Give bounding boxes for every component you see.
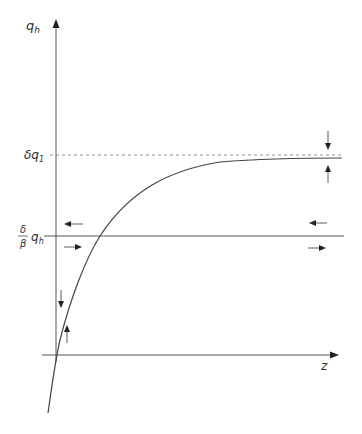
arrow-left-icon xyxy=(309,220,316,226)
arrow-left-icon xyxy=(64,221,71,227)
arrow-up-icon xyxy=(325,165,331,172)
arrow-up-icon xyxy=(64,325,70,332)
arrow-down-icon xyxy=(58,301,64,308)
solution-curve xyxy=(48,158,342,413)
y-axis-label: qh xyxy=(26,18,40,35)
arrow-right-icon xyxy=(319,245,326,251)
ratio-label-var: qh xyxy=(31,230,44,246)
y-axis-arrow-icon xyxy=(53,19,60,28)
upper-level-label: δq1 xyxy=(24,148,44,164)
arrow-right-icon xyxy=(75,244,82,250)
x-axis-label: z xyxy=(320,359,328,373)
ratio-numerator: δ xyxy=(20,224,26,235)
ratio-denominator: β xyxy=(19,238,27,249)
diagram-canvas: qh δq1 δ β qh z xyxy=(0,0,362,434)
x-axis-arrow-icon xyxy=(330,352,339,359)
arrow-down-icon xyxy=(325,143,331,150)
